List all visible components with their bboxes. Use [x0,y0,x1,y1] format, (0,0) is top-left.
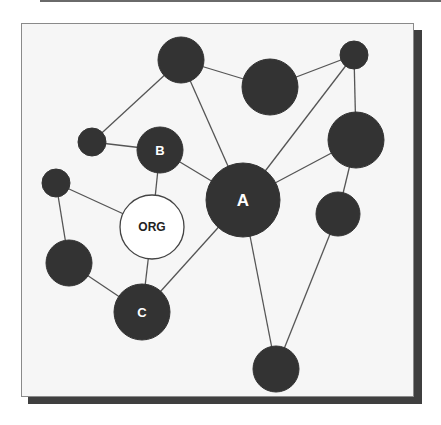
node-n2 [242,59,298,115]
node-b: B [137,127,183,173]
node-circle [316,192,360,236]
node-label: B [155,143,164,158]
node-circle [78,128,106,156]
edges-layer [56,55,356,369]
node-n7 [316,192,360,236]
node-n3 [340,41,368,69]
node-circle [46,240,92,286]
node-circle [328,112,384,168]
node-circle [242,59,298,115]
node-circle [253,346,299,392]
node-label: C [137,305,147,320]
node-n6 [328,112,384,168]
node-circle [158,37,204,83]
node-label: ORG [138,220,165,234]
node-org: ORG [120,195,184,259]
node-n4 [78,128,106,156]
node-label: A [237,191,249,210]
edge-n7-n9 [276,214,338,369]
nodes-layer: BAORGC [42,37,384,392]
node-n5 [42,169,70,197]
node-n8 [46,240,92,286]
node-circle [340,41,368,69]
node-n1 [158,37,204,83]
network-diagram: BAORGC [0,0,441,425]
node-a: A [206,163,280,237]
node-n9 [253,346,299,392]
node-c: C [114,284,170,340]
node-circle [42,169,70,197]
